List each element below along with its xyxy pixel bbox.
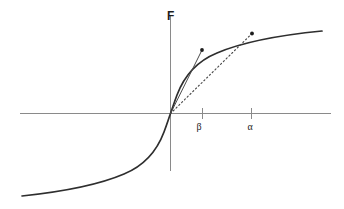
x-tick-label-alpha: α: [247, 121, 253, 132]
secant-line-beta: [171, 50, 203, 114]
marker-point-alpha: [250, 32, 254, 36]
secant-line-alpha: [171, 34, 253, 114]
y-axis-label: F: [167, 9, 174, 23]
sigmoid-function-plot: F β α: [0, 0, 344, 209]
figure-container: F β α: [0, 0, 344, 209]
marker-point-beta: [200, 48, 204, 52]
x-tick-label-beta: β: [196, 121, 201, 132]
